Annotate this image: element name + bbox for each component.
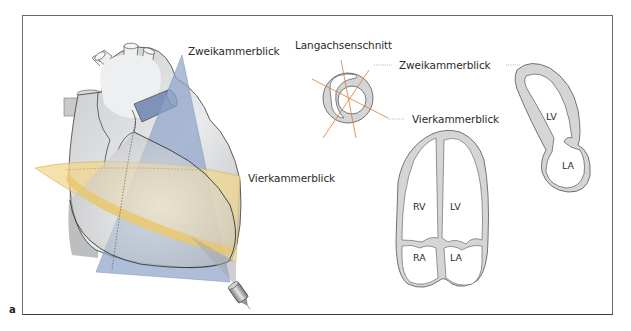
heart-four-chamber-label: Vierkammerblick bbox=[248, 172, 335, 184]
short-axis-section bbox=[312, 60, 520, 138]
four-chamber-lv-label: LV bbox=[450, 201, 461, 212]
two-chamber-lv-label: LV bbox=[546, 111, 557, 122]
two-chamber-la-label: LA bbox=[562, 160, 574, 171]
four-chamber-view bbox=[396, 130, 489, 287]
four-chamber-ra-label: RA bbox=[413, 252, 426, 263]
two-chamber-view bbox=[515, 63, 590, 192]
figure: a bbox=[0, 0, 631, 331]
short-axis-title: Langachsenschnitt bbox=[295, 39, 392, 51]
heart-two-chamber-label: Zweikammerblick bbox=[188, 45, 280, 57]
ultrasound-probe bbox=[227, 280, 255, 312]
short-axis-four-chamber-label: Vierkammerblick bbox=[412, 113, 499, 125]
four-chamber-la-label: LA bbox=[450, 252, 462, 263]
short-axis-two-chamber-label: Zweikammerblick bbox=[399, 59, 491, 71]
four-chamber-rv-label: RV bbox=[413, 201, 426, 212]
